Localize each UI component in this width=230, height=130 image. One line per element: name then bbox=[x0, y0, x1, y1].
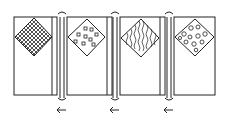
panel-2 bbox=[67, 17, 112, 95]
arrow-left-icon bbox=[57, 107, 66, 113]
diamond-crosshatch bbox=[15, 18, 52, 56]
diagram bbox=[0, 0, 230, 130]
panel-3 bbox=[120, 17, 165, 95]
panel-4 bbox=[174, 17, 215, 95]
connector-2-3 bbox=[110, 12, 119, 113]
panel-1 bbox=[14, 17, 57, 95]
connector-1-2 bbox=[57, 12, 66, 113]
panels-drawing bbox=[0, 0, 230, 130]
arrow-left-icon bbox=[110, 107, 119, 113]
diamond-squares bbox=[68, 19, 105, 56]
arrow-left-icon bbox=[164, 107, 173, 113]
